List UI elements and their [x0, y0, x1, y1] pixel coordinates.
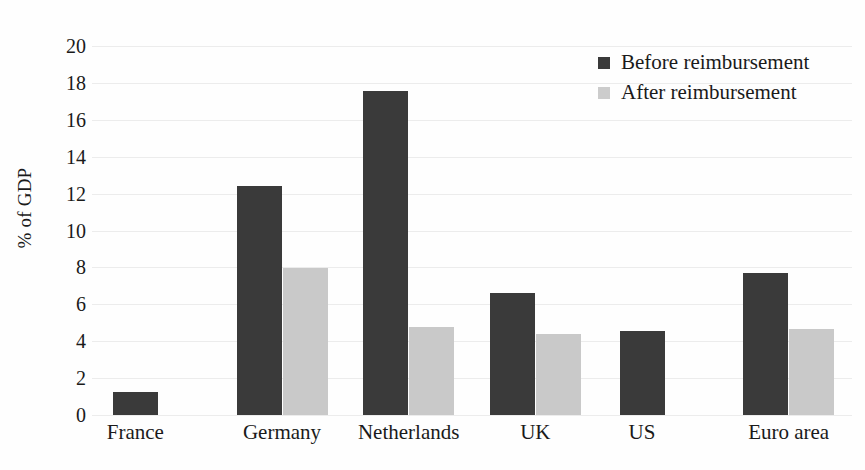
x-tick-label: Netherlands [358, 420, 459, 445]
bar-after [789, 329, 834, 415]
legend-item[interactable]: Before reimbursement [598, 52, 809, 73]
legend-item[interactable]: After reimbursement [598, 82, 809, 103]
y-tick-label: 8 [38, 257, 86, 277]
x-tick-label: France [107, 420, 164, 445]
legend-swatch-after-icon [598, 87, 610, 99]
y-axis-title-label: % of GDP [14, 167, 36, 248]
y-tick-label: 2 [38, 368, 86, 388]
y-tick-label: 0 [38, 405, 86, 425]
x-axis-tick-labels: FranceGermanyNetherlandsUKUSEuro area [92, 420, 852, 460]
legend-label: Before reimbursement [621, 52, 809, 73]
x-tick-label: US [629, 420, 656, 445]
y-tick-label: 14 [38, 147, 86, 167]
legend-label: After reimbursement [621, 82, 797, 103]
chart-legend: Before reimbursementAfter reimbursement [598, 52, 809, 103]
y-axis-tick-labels: 02468101214161820 [38, 0, 86, 470]
y-tick-label: 18 [38, 73, 86, 93]
y-tick-label: 12 [38, 184, 86, 204]
bar-chart: % of GDP 02468101214161820 FranceGermany… [0, 0, 865, 470]
x-tick-label: UK [520, 420, 550, 445]
y-tick-label: 10 [38, 221, 86, 241]
y-tick-label: 4 [38, 331, 86, 351]
x-tick-label: Euro area [748, 420, 829, 445]
legend-swatch-before-icon [598, 57, 610, 69]
y-tick-label: 20 [38, 36, 86, 56]
y-axis-title: % of GDP [10, 0, 40, 415]
gridline [92, 415, 852, 416]
y-tick-label: 16 [38, 110, 86, 130]
bar-before [743, 273, 788, 415]
y-tick-label: 6 [38, 294, 86, 314]
x-tick-label: Germany [243, 420, 321, 445]
